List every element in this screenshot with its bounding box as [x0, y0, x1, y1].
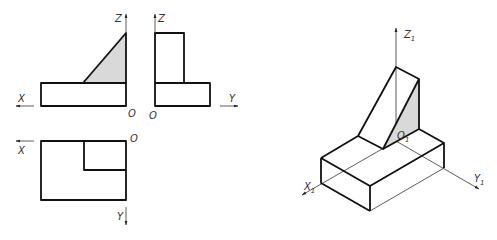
- iso-y-label: Y1: [474, 173, 485, 187]
- top-x-label: X: [17, 145, 26, 156]
- front-view: Z X O: [16, 13, 136, 119]
- isometric-view: Z1 Y1 X1 O1: [302, 28, 485, 211]
- top-view: X Y O: [16, 133, 138, 225]
- iso-base-bottom-right-edge: [370, 168, 444, 211]
- iso-base-back-left: [321, 136, 358, 158]
- side-view: Z Y O: [149, 13, 238, 121]
- iso-base-back-right: [419, 129, 444, 143]
- front-z-label: Z: [114, 13, 123, 24]
- side-base-rect: [155, 83, 210, 106]
- side-origin-label: O: [149, 110, 157, 121]
- top-inner-outline: [84, 141, 126, 170]
- side-z-label: Z: [157, 13, 166, 24]
- side-y-label: Y: [229, 93, 236, 104]
- front-origin-label: O: [128, 108, 136, 119]
- front-base-rect: [41, 83, 126, 106]
- iso-x-label: X1: [303, 181, 315, 195]
- iso-base-left-edges: [321, 158, 370, 211]
- iso-y-axis: [396, 141, 479, 189]
- projection-diagram: Z X O Z Y O X Y O: [0, 0, 497, 240]
- iso-z-label: Z1: [403, 29, 415, 43]
- top-origin-label: O: [130, 133, 138, 144]
- top-y-label: Y: [117, 211, 124, 222]
- front-x-label: X: [17, 93, 26, 104]
- side-upright-rect: [155, 33, 184, 83]
